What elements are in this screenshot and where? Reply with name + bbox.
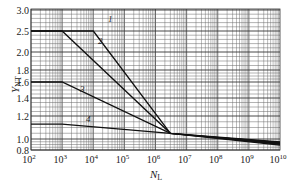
x-tick-label: 104 — [85, 153, 99, 165]
x-tick-label: 103 — [53, 153, 67, 165]
x-tick-label: 108 — [209, 153, 223, 165]
curve-label-4: 4 — [86, 114, 91, 124]
y-tick-label: 3.0 — [17, 5, 30, 16]
x-tick-label: 105 — [116, 153, 130, 165]
y-tick-label: 1.4 — [17, 93, 30, 104]
y-tick-label: 1.0 — [17, 134, 30, 145]
x-axis-label: NL — [149, 168, 162, 182]
x-tick-label: 1010 — [270, 153, 288, 165]
y-tick-label: 2.5 — [17, 26, 30, 37]
fatigue-life-chart: 1234 3.02.52.01.81.61.41.21.00.8 1021031… — [0, 0, 289, 183]
y-axis-label: YNT — [9, 76, 23, 93]
plot-grid — [31, 9, 280, 150]
y-tick-label: 1.2 — [17, 111, 30, 122]
x-tick-label: 107 — [178, 153, 192, 165]
x-tick-label: 109 — [240, 153, 254, 165]
curve-label-3: 3 — [79, 84, 85, 94]
y-tick-label: 1.8 — [17, 65, 30, 76]
x-axis-ticks: 1021031041051061071081091010 — [22, 153, 287, 165]
curve-label-2: 2 — [98, 36, 103, 46]
x-tick-label: 106 — [147, 153, 161, 165]
y-tick-label: 2.0 — [17, 47, 30, 58]
curve-label-1: 1 — [108, 14, 113, 24]
x-tick-label: 102 — [22, 153, 36, 165]
